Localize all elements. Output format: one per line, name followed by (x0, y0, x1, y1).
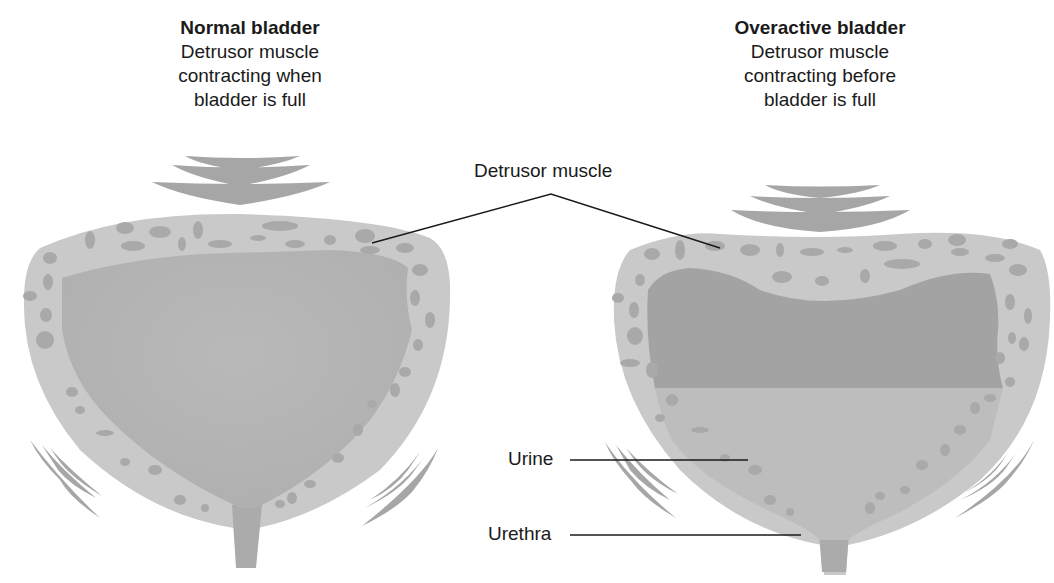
urine-label: Urine (508, 448, 553, 470)
normal-bladder-title: Normal bladder (140, 16, 360, 40)
normal-caption-line-2: contracting when (140, 64, 360, 88)
overactive-caption-line-1: Detrusor muscle (700, 40, 940, 64)
normal-caption-line-1: Detrusor muscle (140, 40, 360, 64)
urine-lumen (655, 388, 1003, 540)
urethra-label: Urethra (488, 523, 551, 545)
normal-bladder-heading: Normal bladder Detrusor muscle contracti… (140, 16, 360, 112)
normal-bladder (23, 156, 450, 568)
overactive-caption-line-2: contracting before (700, 64, 940, 88)
overactive-caption-line-3: bladder is full (700, 88, 940, 112)
top-muscle-fan-icon (152, 156, 330, 205)
urethra (232, 505, 262, 568)
overactive-bladder-heading: Overactive bladder Detrusor muscle contr… (700, 16, 940, 112)
top-muscle-fan-icon (731, 185, 910, 232)
detrusor-muscle-label: Detrusor muscle (474, 160, 612, 182)
overactive-bladder-title: Overactive bladder (700, 16, 940, 40)
normal-caption-line-3: bladder is full (140, 88, 360, 112)
overactive-bladder (605, 185, 1050, 575)
